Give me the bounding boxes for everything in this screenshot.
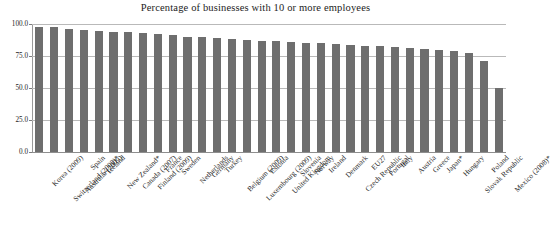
bar bbox=[198, 37, 206, 152]
bar bbox=[65, 29, 73, 152]
bar bbox=[169, 35, 177, 152]
y-tick-label: 0.0 bbox=[0, 149, 28, 156]
bar bbox=[435, 50, 443, 152]
bar bbox=[450, 51, 458, 152]
bar bbox=[154, 34, 162, 152]
x-axis-labels: Korea (2009)Switzerland (2008)*Australia… bbox=[32, 154, 506, 243]
y-tick-mark bbox=[29, 88, 32, 89]
bar bbox=[376, 46, 384, 152]
bar bbox=[302, 43, 310, 152]
bar bbox=[124, 32, 132, 152]
y-tick-label: 25.0 bbox=[0, 117, 28, 124]
bar bbox=[243, 40, 251, 152]
y-tick-label: 50.0 bbox=[0, 85, 28, 92]
bar bbox=[406, 48, 414, 152]
bar bbox=[332, 44, 340, 152]
chart-title: Percentage of businesses with 10 or more… bbox=[0, 2, 511, 13]
bar bbox=[80, 30, 88, 152]
bar bbox=[258, 41, 266, 152]
y-tick-mark bbox=[29, 152, 32, 153]
bars-layer bbox=[32, 24, 506, 152]
y-tick-mark bbox=[29, 56, 32, 57]
y-tick-mark bbox=[29, 120, 32, 121]
bar bbox=[109, 32, 117, 152]
bar bbox=[391, 47, 399, 152]
bar bbox=[50, 27, 58, 152]
bar bbox=[420, 49, 428, 152]
bar bbox=[287, 42, 295, 152]
bar bbox=[346, 45, 354, 152]
bar bbox=[228, 39, 236, 152]
bar bbox=[272, 41, 280, 152]
x-tick-label: Iceland bbox=[105, 154, 126, 175]
x-tick-label: Korea (2009) bbox=[51, 154, 85, 188]
bar bbox=[495, 88, 503, 152]
x-tick-label: Hungary bbox=[462, 154, 486, 178]
bar bbox=[317, 43, 325, 152]
y-tick-label: 100.0 bbox=[0, 21, 28, 28]
x-tick-label: Denmark bbox=[344, 154, 369, 179]
bar bbox=[35, 27, 43, 152]
y-tick-label: 75.0 bbox=[0, 53, 28, 60]
bar bbox=[465, 53, 473, 152]
bar bbox=[361, 46, 369, 152]
y-tick-mark bbox=[29, 24, 32, 25]
gridline bbox=[32, 152, 506, 153]
plot-area bbox=[32, 24, 506, 152]
bar bbox=[139, 33, 147, 152]
bar bbox=[213, 38, 221, 152]
bar bbox=[480, 61, 488, 152]
bar bbox=[183, 37, 191, 152]
bar bbox=[95, 31, 103, 152]
